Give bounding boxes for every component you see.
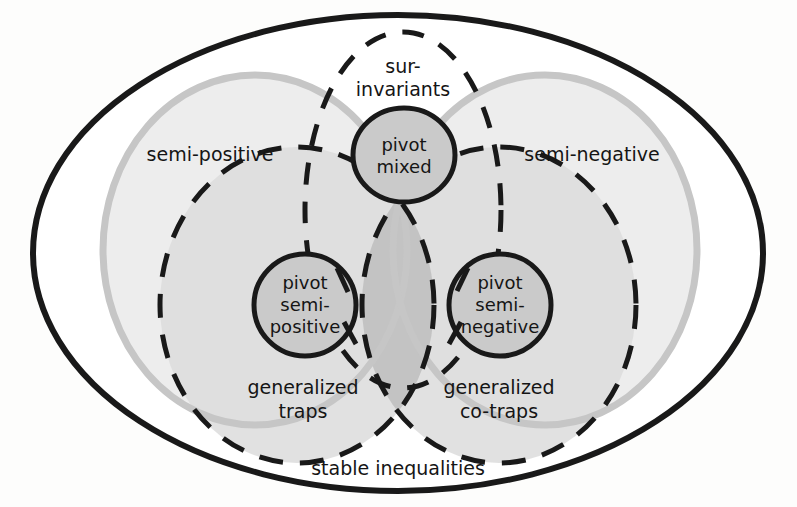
generalized-traps-label-line2: traps [279, 400, 328, 422]
pivot-semi-positive-label-line3: positive [270, 316, 341, 337]
stable-inequalities-label: stable inequalities [311, 457, 485, 479]
pivot-semi-negative-label-line2: semi- [475, 294, 524, 315]
pivot-semi-positive-label-line2: semi- [280, 294, 329, 315]
pivot-semi-negative-label-line1: pivot [477, 272, 522, 293]
pivot-semi-positive-label-line1: pivot [282, 272, 327, 293]
venn-diagram-canvas: semi-positive semi-negative sur- invaria… [0, 0, 797, 507]
generalized-traps-label-line1: generalized [247, 376, 358, 398]
semi-negative-label: semi-negative [524, 143, 659, 165]
pivot-mixed-label-line1: pivot [381, 134, 426, 155]
sur-invariants-label-line2: invariants [356, 78, 450, 100]
generalized-co-traps-label-line2: co-traps [460, 400, 538, 422]
sur-invariants-label-line1: sur- [385, 55, 420, 77]
venn-diagram-figure: semi-positive semi-negative sur- invaria… [0, 0, 797, 507]
semi-positive-label: semi-positive [147, 143, 274, 165]
pivot-mixed-label-line2: mixed [376, 156, 431, 177]
pivot-mixed-circle [353, 108, 455, 202]
generalized-co-traps-label-line1: generalized [443, 376, 554, 398]
pivot-semi-negative-label-line3: negative [461, 316, 540, 337]
